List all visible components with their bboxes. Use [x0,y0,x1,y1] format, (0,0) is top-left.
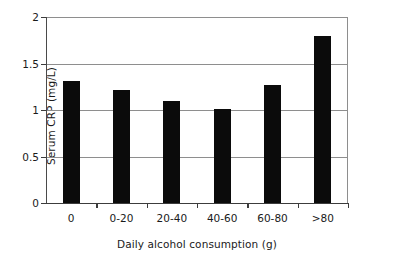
x-tick-label: >80 [298,212,348,224]
x-tick-mark [298,203,299,208]
bar-chart-figure: Serum CRP (mg/L) 00.511.52 00-2020-4040-… [0,0,396,262]
y-tick-label: 2 [32,11,39,23]
x-tick-mark [96,203,97,208]
bar [264,85,281,203]
x-tick-label: 20-40 [147,212,197,224]
x-tick-mark [147,203,148,208]
y-tick-label: 0 [32,197,39,209]
x-axis-title: Daily alcohol consumption (g) [46,238,348,250]
bar [63,81,80,203]
bar [163,101,180,203]
y-tick-label: 0.5 [22,151,39,163]
bar-series [46,17,348,203]
x-tick-mark [197,203,198,208]
y-tick-mark [41,203,46,204]
x-tick-mark [348,203,349,208]
x-tick-mark [247,203,248,208]
y-tick-label: 1.5 [22,58,39,70]
x-tick-label: 0 [46,212,96,224]
y-tick-label: 1 [32,104,39,116]
x-tick-label: 0-20 [96,212,146,224]
x-tick-label: 60-80 [247,212,297,224]
bar [214,109,231,203]
x-tick-label: 40-60 [197,212,247,224]
bar [314,36,331,203]
bar [113,90,130,203]
